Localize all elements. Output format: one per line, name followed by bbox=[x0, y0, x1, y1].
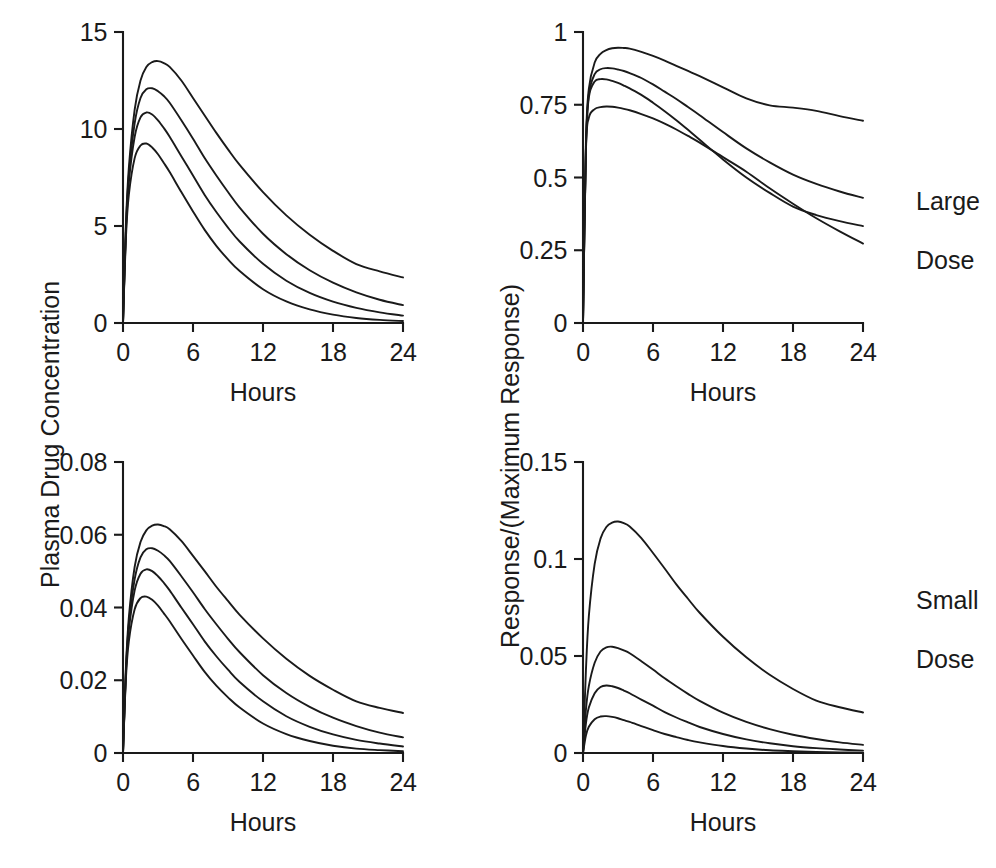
curve-bottom-left-2 bbox=[123, 569, 403, 753]
y-tick-label: 0.25 bbox=[520, 236, 567, 264]
curve-top-left-0 bbox=[123, 61, 403, 323]
x-axis-title: Hours bbox=[690, 378, 757, 406]
y-tick-label: 0.5 bbox=[533, 164, 567, 192]
x-tick-label: 0 bbox=[576, 768, 590, 796]
x-tick-label: 12 bbox=[709, 338, 736, 366]
x-tick-label: 0 bbox=[116, 768, 130, 796]
y-tick-label: 0.05 bbox=[520, 642, 567, 670]
y-tick-label: 0.75 bbox=[520, 91, 567, 119]
curve-bottom-right-0 bbox=[583, 522, 863, 753]
x-tick-label: 6 bbox=[186, 768, 200, 796]
x-tick-label: 18 bbox=[779, 338, 806, 366]
y-tick-label: 0.06 bbox=[60, 521, 107, 549]
x-tick-label: 24 bbox=[389, 768, 417, 796]
x-tick-label: 18 bbox=[319, 768, 346, 796]
panel-top-left: 05101506121824Hours bbox=[0, 0, 460, 430]
panel-top-right: 00.250.50.75106121824Hours bbox=[460, 0, 920, 430]
chart-bottom-right: 00.050.10.1506121824Hours bbox=[460, 430, 920, 860]
x-tick-label: 0 bbox=[116, 338, 130, 366]
curve-top-right-1 bbox=[583, 68, 863, 323]
y-tick-label: 5 bbox=[93, 212, 107, 240]
y-tick-label: 0.15 bbox=[520, 448, 567, 476]
x-tick-label: 12 bbox=[709, 768, 736, 796]
x-tick-label: 18 bbox=[319, 338, 346, 366]
x-tick-label: 6 bbox=[646, 338, 660, 366]
y-tick-label: 0.08 bbox=[60, 448, 107, 476]
curve-top-left-1 bbox=[123, 88, 403, 323]
panel-bottom-right: 00.050.10.1506121824Hours bbox=[460, 430, 920, 860]
y-tick-label: 1 bbox=[553, 18, 567, 46]
y-tick-label: 0.1 bbox=[533, 545, 567, 573]
curve-top-right-3 bbox=[583, 106, 863, 323]
y-tick-label: 0 bbox=[553, 309, 567, 337]
curve-bottom-left-0 bbox=[123, 525, 403, 753]
x-tick-label: 0 bbox=[576, 338, 590, 366]
x-tick-label: 12 bbox=[249, 768, 276, 796]
y-tick-label: 15 bbox=[80, 18, 107, 46]
row-label-large-dose-line1: Large bbox=[916, 187, 980, 215]
chart-top-left: 05101506121824Hours bbox=[0, 0, 460, 430]
chart-top-right: 00.250.50.75106121824Hours bbox=[460, 0, 920, 430]
curve-top-left-2 bbox=[123, 112, 403, 323]
curve-bottom-right-1 bbox=[583, 647, 863, 753]
row-label-large-dose: Large Dose bbox=[916, 157, 980, 275]
row-label-large-dose-line2: Dose bbox=[916, 246, 974, 274]
curve-top-right-2 bbox=[583, 79, 863, 323]
y-tick-label: 0 bbox=[93, 309, 107, 337]
y-tick-label: 0.02 bbox=[60, 666, 107, 694]
x-tick-label: 12 bbox=[249, 338, 276, 366]
x-tick-label: 24 bbox=[849, 768, 877, 796]
y-tick-label: 0 bbox=[553, 739, 567, 767]
y-tick-label: 0 bbox=[93, 739, 107, 767]
row-label-small-dose-line1: Small bbox=[916, 586, 979, 614]
y-tick-label: 10 bbox=[80, 115, 107, 143]
panel-bottom-left: 00.020.040.060.0806121824Hours bbox=[0, 430, 460, 860]
row-label-small-dose: Small Dose bbox=[916, 556, 979, 674]
x-tick-label: 24 bbox=[849, 338, 877, 366]
figure-root: Plasma Drug Concentration Response/(Maxi… bbox=[0, 0, 996, 868]
y-tick-label: 0.04 bbox=[60, 594, 108, 622]
curve-bottom-right-2 bbox=[583, 685, 863, 753]
x-axis-title: Hours bbox=[230, 378, 297, 406]
curve-bottom-left-1 bbox=[123, 548, 403, 753]
row-label-small-dose-line2: Dose bbox=[916, 645, 974, 673]
chart-bottom-left: 00.020.040.060.0806121824Hours bbox=[0, 430, 460, 860]
x-axis-title: Hours bbox=[690, 808, 757, 836]
x-tick-label: 18 bbox=[779, 768, 806, 796]
x-tick-label: 24 bbox=[389, 338, 417, 366]
x-axis-title: Hours bbox=[230, 808, 297, 836]
x-tick-label: 6 bbox=[646, 768, 660, 796]
x-tick-label: 6 bbox=[186, 338, 200, 366]
